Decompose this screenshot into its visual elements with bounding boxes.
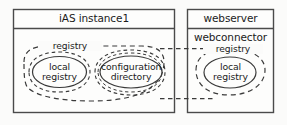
- component-label-line2: registry: [33, 72, 86, 82]
- group-label-registry-left: registry: [38, 41, 102, 51]
- node-title-webserver: webserver: [187, 13, 274, 24]
- component-label-local-registry-right: local registry: [204, 62, 257, 83]
- node-title-ias-instance1: iAS instance1: [13, 13, 175, 24]
- component-label-local-registry-left: local registry: [33, 62, 86, 83]
- node-subtitle-webconnector: webconnector: [187, 32, 274, 43]
- component-label-configuration-directory: configuration directory: [101, 62, 161, 83]
- component-label-line2: registry: [204, 72, 257, 82]
- uml-deployment-diagram: iAS instance1 registry local registry co…: [0, 0, 287, 125]
- component-label-line2: directory: [101, 72, 161, 82]
- group-label-registry-right: registry: [203, 44, 263, 54]
